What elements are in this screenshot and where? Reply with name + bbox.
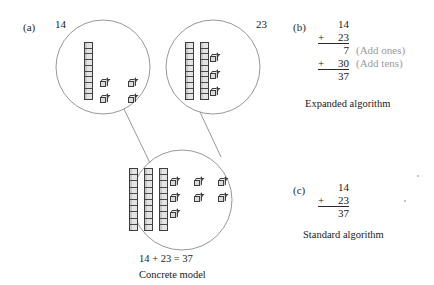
tens-rods-sum [129,168,168,231]
unit-cube [170,194,178,202]
operator [318,207,331,220]
unit-cube [170,178,178,186]
algo-row: 37 [318,70,405,83]
unit-cube [100,95,108,103]
annotation: (Add tens) [349,57,405,70]
scan-speck [417,175,419,177]
operator [318,181,331,194]
algo-row: + 23 [318,194,349,207]
algo-row: + 23 [318,31,405,44]
addend-two-label: 23 [256,19,267,30]
unit-cube [194,178,202,186]
algo-row: 7 (Add ones) [318,44,405,57]
expanded-algorithm: 14 + 23 7 (Add ones) + 30 (Add tens) 37 [318,18,405,83]
concrete-model-caption: Concrete model [139,270,206,281]
unit-cube [210,54,218,62]
annotation: (Add ones) [349,44,405,57]
connector-left [124,109,150,163]
digits: 14 [331,18,349,31]
algo-row: 14 [318,18,405,31]
digits: 23 [331,194,349,207]
unit-cubes-addend-two [210,54,228,96]
annotation [349,18,405,31]
concrete-model-equation: 14 + 23 = 37 [139,254,193,265]
annotation [349,70,405,83]
ten-rod [200,42,209,100]
panel-c-tag: (c) [293,185,305,196]
scan-speck [404,200,406,202]
connector-right [200,112,221,157]
unit-cube [100,79,108,87]
ten-rod [129,168,138,231]
ten-rod [84,42,93,100]
unit-cube [128,95,136,103]
operator: + [318,31,331,44]
tens-rods-addend-two [185,42,209,100]
tens-rods-addend-one [84,42,93,100]
digits: 37 [331,207,349,220]
operator [318,18,331,31]
algo-row: + 30 (Add tens) [318,57,405,70]
unit-cube [218,194,226,202]
ten-rod [159,168,168,231]
unit-cube [128,79,136,87]
ten-rod [144,168,153,231]
algo-row: 37 [318,207,349,220]
operator [318,44,331,57]
operator: + [318,57,331,70]
unit-cubes-sum [170,178,233,218]
unit-cubes-addend-one [100,79,146,103]
ten-rod [185,42,194,100]
digits: 37 [331,70,349,83]
base-ten-addition-figure: (a) 14 23 [0,0,434,285]
addend-one-label: 14 [55,19,66,30]
unit-cube [210,71,218,79]
panel-a-tag: (a) [23,22,35,33]
standard-algorithm-caption: Standard algorithm [303,229,384,240]
expanded-algorithm-caption: Expanded algorithm [305,98,390,109]
algo-row: 14 [318,181,349,194]
digits: 23 [331,31,349,44]
unit-cube [170,210,178,218]
digits: 30 [331,57,349,70]
panel-b-tag: (b) [293,22,306,33]
digits: 14 [331,181,349,194]
operator: + [318,194,331,207]
digits: 7 [331,44,349,57]
standard-algorithm: 14 + 23 37 [318,181,349,220]
annotation [349,31,405,44]
operator [318,70,331,83]
unit-cube [210,88,218,96]
unit-cube [194,194,202,202]
unit-cube [218,178,226,186]
